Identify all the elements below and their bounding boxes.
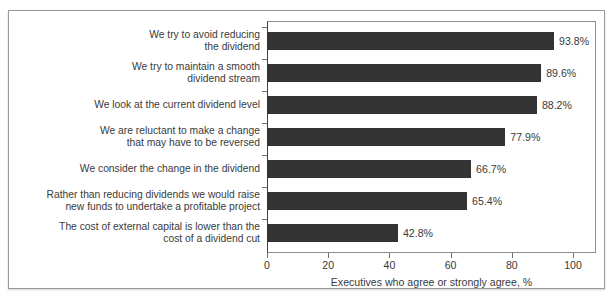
x-axis-tick	[451, 253, 452, 258]
bar-track: 89.6%	[267, 64, 596, 82]
bar[interactable]	[267, 128, 505, 146]
category-label: The cost of external capital is lower th…	[12, 221, 260, 246]
bar-value-label: 89.6%	[541, 67, 576, 79]
x-axis-tick-label: 40	[383, 259, 395, 271]
bar[interactable]	[267, 32, 554, 50]
bar-chart: We try to avoid reducing the dividend93.…	[9, 11, 606, 290]
bar-track: 66.7%	[267, 160, 596, 178]
bar-value-label: 93.8%	[554, 35, 589, 47]
y-axis-tick	[262, 219, 267, 220]
bar-row: We are reluctant to make a change that m…	[9, 121, 606, 153]
category-label: We try to avoid reducing the dividend	[12, 29, 260, 54]
bar[interactable]	[267, 192, 467, 210]
category-label: We consider the change in the dividend	[12, 163, 260, 175]
bar-value-label: 66.7%	[471, 163, 506, 175]
y-axis-tick	[262, 27, 267, 28]
category-label: We try to maintain a smooth dividend str…	[12, 61, 260, 86]
y-axis-tick	[262, 155, 267, 156]
x-axis-tick-label: 20	[322, 259, 334, 271]
y-axis-tick	[262, 59, 267, 60]
y-axis-tick	[262, 187, 267, 188]
bar-row: We try to maintain a smooth dividend str…	[9, 57, 606, 89]
bar-value-label: 88.2%	[537, 99, 572, 111]
bar-track: 65.4%	[267, 192, 596, 210]
bar-value-label: 42.8%	[398, 227, 433, 239]
bar[interactable]	[267, 64, 541, 82]
x-axis-tick-label: 60	[445, 259, 457, 271]
bar-track: 93.8%	[267, 32, 596, 50]
figure-frame: We try to avoid reducing the dividend93.…	[8, 10, 605, 289]
x-axis-tick-label: 80	[506, 259, 518, 271]
bar[interactable]	[267, 160, 471, 178]
bar-row: Rather than reducing dividends we would …	[9, 185, 606, 217]
bar[interactable]	[267, 96, 537, 114]
bar-track: 77.9%	[267, 128, 596, 146]
y-axis-tick	[262, 123, 267, 124]
x-axis-tick	[328, 253, 329, 258]
bar-value-label: 65.4%	[467, 195, 502, 207]
x-axis-tick-label: 100	[564, 259, 582, 271]
y-axis-tick	[262, 91, 267, 92]
x-axis-tick-label: 0	[264, 259, 270, 271]
bar[interactable]	[267, 224, 398, 242]
x-axis-tick	[573, 253, 574, 258]
bar-track: 88.2%	[267, 96, 596, 114]
bar-row: We consider the change in the dividend66…	[9, 153, 606, 185]
bar-track: 42.8%	[267, 224, 596, 242]
category-label: We are reluctant to make a change that m…	[12, 125, 260, 150]
category-label: We look at the current dividend level	[12, 99, 260, 111]
bar-row: We try to avoid reducing the dividend93.…	[9, 25, 606, 57]
x-axis-tick	[512, 253, 513, 258]
x-axis-tick	[389, 253, 390, 258]
bar-row: The cost of external capital is lower th…	[9, 217, 606, 249]
x-axis-tick	[267, 253, 268, 258]
bar-value-label: 77.9%	[505, 131, 540, 143]
x-axis: 020406080100 Executives who agree or str…	[267, 253, 596, 289]
bar-row: We look at the current dividend level88.…	[9, 89, 606, 121]
x-axis-title: Executives who agree or strongly agree, …	[267, 276, 596, 288]
category-label: Rather than reducing dividends we would …	[12, 189, 260, 214]
